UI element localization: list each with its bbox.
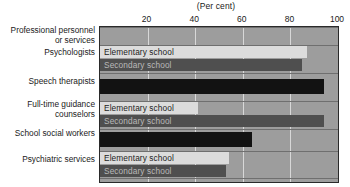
bar-2-0	[100, 79, 324, 94]
bar-4-0	[100, 132, 252, 147]
bar-1-0: Elementary school	[100, 46, 307, 58]
bar-series-label: Elementary school	[100, 153, 174, 163]
row-separator-bottom	[100, 178, 338, 179]
row-separator-4	[100, 129, 338, 130]
bar-series-label: Elementary school	[100, 103, 174, 113]
category-label-0: Professional personnel or services	[0, 26, 95, 45]
row-separator-0	[100, 27, 338, 28]
x-tick-80: 80	[285, 14, 294, 24]
category-label-column: Professional personnel or servicesPsycho…	[0, 26, 95, 181]
bar-3-1: Secondary school	[100, 115, 324, 127]
row-separator-2	[100, 73, 338, 74]
chart-unit-title-text: (Per cent)	[197, 1, 235, 11]
x-tick-60: 60	[237, 14, 246, 24]
category-label-4: School social workers	[0, 129, 95, 139]
bar-5-1: Secondary school	[100, 165, 226, 177]
bar-series-label: Secondary school	[100, 60, 172, 70]
x-tick-100: 100	[330, 14, 344, 24]
bar-3-0: Elementary school	[100, 102, 198, 114]
bar-series-label: Secondary school	[100, 166, 172, 176]
x-tick-40: 40	[189, 14, 198, 24]
bar-series-label: Elementary school	[100, 47, 174, 57]
bar-chart: (Per cent) 20406080100 Professional pers…	[0, 0, 350, 187]
bar-1-1: Secondary school	[100, 59, 302, 71]
x-tick-20: 20	[142, 14, 151, 24]
bar-series-label: Secondary school	[100, 116, 172, 126]
category-label-5: Psychiatric services	[0, 155, 95, 165]
category-label-2: Speech therapists	[0, 77, 95, 87]
plot-area: Elementary schoolSecondary schoolElement…	[99, 26, 339, 183]
bar-5-0: Elementary school	[100, 152, 229, 164]
category-label-1: Psychologists	[0, 48, 95, 58]
category-label-3: Full-time guidance counselors	[0, 100, 95, 119]
chart-unit-title: (Per cent)	[0, 1, 350, 11]
